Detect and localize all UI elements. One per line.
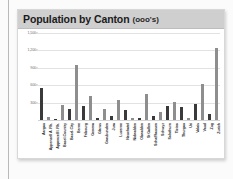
x-label-slot: Valais [192, 122, 199, 159]
y-axis-tick-label: 1,500 [28, 31, 37, 35]
bar-slot [101, 33, 108, 120]
bar-slot [164, 33, 171, 120]
bar-slot [157, 33, 164, 120]
x-label-slot: Solothurn [164, 122, 171, 159]
bar [201, 84, 205, 120]
bar [40, 88, 44, 120]
bar [117, 100, 121, 120]
bar-slot [150, 33, 157, 120]
y-axis-tick-label: 1,200 [28, 48, 37, 52]
x-label-slot: Berne [73, 122, 80, 159]
x-label-slot: Ticino [171, 122, 178, 159]
bar [145, 94, 149, 120]
x-label-slot: Lucerne [115, 122, 122, 159]
x-label-slot: Vaud [199, 122, 206, 159]
bar-slot [52, 33, 59, 120]
x-label-slot: Aargau [38, 122, 45, 159]
bar [131, 118, 135, 120]
chart-title-bar: Population by Canton (ooo's) [18, 10, 224, 29]
x-label-slot: Uri [185, 122, 192, 159]
bar-slot [143, 33, 150, 120]
bar-slot [185, 33, 192, 120]
x-label-slot: Basel-Country [59, 122, 66, 159]
bar-slot [122, 33, 129, 120]
bar-slot [59, 33, 66, 120]
bar [187, 118, 191, 120]
bar [110, 116, 114, 120]
x-label-slot: St Gallen [143, 122, 150, 159]
bar-slot [38, 33, 45, 120]
x-label-slot: Neuchatel [122, 122, 129, 159]
bar-slot [206, 33, 213, 120]
x-label-slot: Basel-City [66, 122, 73, 159]
bar [173, 102, 177, 120]
x-label-slot: Appenzell A. Rh. [45, 122, 52, 159]
bar [54, 119, 58, 120]
x-axis-tick-label: Zurich [217, 123, 221, 134]
bar [124, 110, 128, 120]
bar [152, 116, 156, 120]
left-margin-rule [8, 0, 9, 179]
x-label-slot: Graubunden [101, 122, 108, 159]
x-axis-labels: AargauAppenzell A. Rh.Appenzell I. Rh.Ba… [38, 122, 220, 159]
bar [215, 48, 219, 121]
bar-series [38, 33, 220, 120]
x-label-slot: Glarus [94, 122, 101, 159]
bar [75, 65, 79, 120]
bar-slot [87, 33, 94, 120]
x-label-slot: Schaffhausen [150, 122, 157, 159]
y-axis-tick-label: 900 [30, 66, 36, 70]
bar [89, 96, 93, 120]
bar [96, 118, 100, 120]
bar [194, 104, 198, 120]
bar-slot [129, 33, 136, 120]
bar-slot [66, 33, 73, 120]
bar-slot [45, 33, 52, 120]
chart-panel: Population by Canton (ooo's) 3006009001,… [17, 9, 225, 159]
bar [47, 117, 51, 120]
bar [180, 107, 184, 120]
x-label-slot: Fribourg [80, 122, 87, 159]
bar [82, 106, 86, 120]
bar [103, 109, 107, 120]
x-label-slot: Obwalden [136, 122, 143, 159]
x-label-slot: Zurich [213, 122, 220, 159]
bar-slot [178, 33, 185, 120]
y-axis-tick-label: 600 [30, 83, 36, 87]
bar [138, 118, 142, 120]
bar-slot [192, 33, 199, 120]
x-label-slot: Zug [206, 122, 213, 159]
bar-slot [115, 33, 122, 120]
plot-wrapper: 3006009001,2001,500 AargauAppenzell A. R… [18, 29, 224, 159]
x-label-slot: Thurgau [178, 122, 185, 159]
page-title: Population by Canton [23, 13, 130, 25]
bar [208, 114, 212, 120]
bar-slot [136, 33, 143, 120]
bar-slot [73, 33, 80, 120]
bar [61, 105, 65, 120]
bar [166, 106, 170, 120]
bar-slot [199, 33, 206, 120]
bar-slot [108, 33, 115, 120]
plot-area: 3006009001,2001,500 [38, 33, 220, 120]
bar-slot [213, 33, 220, 120]
bar [159, 112, 163, 120]
y-axis-tick-label: 300 [30, 101, 36, 105]
x-label-slot: Schwyz [157, 122, 164, 159]
bar [68, 109, 72, 120]
x-label-slot: Appenzell I. Rh. [52, 122, 59, 159]
x-axis-line [38, 120, 220, 121]
bar-slot [94, 33, 101, 120]
x-label-slot: Geneva [87, 122, 94, 159]
page-title-units: (ooo's) [133, 15, 159, 24]
bar-slot [80, 33, 87, 120]
bar-slot [171, 33, 178, 120]
x-label-slot: Nidwalden [129, 122, 136, 159]
x-label-slot: Jura [108, 122, 115, 159]
